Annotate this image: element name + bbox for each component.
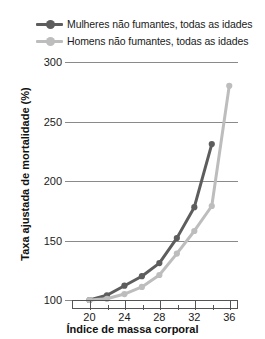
data-point-marker [226, 83, 232, 89]
data-point-marker [174, 250, 180, 256]
x-axis-tick-mark [125, 301, 126, 310]
mortality-bmi-line-chart: Mulheres não fumantes, todas as idades H… [0, 0, 265, 339]
x-axis-tick-label: 28 [146, 311, 172, 323]
legend-label-mulheres: Mulheres não fumantes, todas as idades [67, 19, 252, 30]
x-axis-tick-label: 24 [111, 311, 137, 323]
x-axis-tick-label: 36 [216, 311, 242, 323]
y-axis-tick-label: 250 [28, 117, 62, 128]
x-axis-minor-tick-mark [143, 305, 144, 310]
data-point-marker [209, 203, 215, 209]
y-axis-tick-mark [65, 181, 72, 182]
y-axis-tick-mark [65, 62, 72, 63]
data-point-marker [174, 235, 180, 241]
x-axis-minor-tick-mark [108, 305, 109, 310]
x-axis-tick-label: 32 [181, 311, 207, 323]
x-axis-tick-mark [230, 301, 231, 310]
x-axis-title: Índice de massa corporal [0, 323, 265, 335]
legend-label-homens: Homens não fumantes, todas as idades [67, 36, 248, 47]
chart-legend: Mulheres não fumantes, todas as idades H… [36, 16, 252, 50]
data-point-marker [156, 260, 162, 266]
series-line-mulheres [89, 144, 211, 300]
y-axis-tick-mark [65, 241, 72, 242]
y-axis-tick-mark [65, 122, 72, 123]
y-axis-title: Taxa ajustada de mortalidade (%) [19, 64, 31, 284]
x-axis-minor-tick-mark [213, 305, 214, 310]
y-axis-tick-label: 300 [28, 57, 62, 68]
y-axis-tick-label: 200 [28, 176, 62, 187]
legend-item-mulheres: Mulheres não fumantes, todas as idades [36, 16, 252, 33]
series-line-homens [89, 86, 229, 300]
data-point-marker [156, 272, 162, 278]
y-axis-tick-label: 150 [28, 236, 62, 247]
plot-area [72, 62, 238, 300]
data-point-marker [209, 141, 215, 147]
x-axis-minor-tick-mark [178, 305, 179, 310]
x-axis-tick-mark [160, 301, 161, 310]
series-layer [72, 62, 238, 300]
legend-item-homens: Homens não fumantes, todas as idades [36, 33, 252, 50]
data-point-marker [139, 284, 145, 290]
data-point-marker [191, 204, 197, 210]
data-point-marker [191, 228, 197, 234]
x-axis [72, 300, 238, 309]
x-axis-tick-mark [195, 301, 196, 310]
data-point-marker [121, 291, 127, 297]
x-axis-tick-label: 20 [76, 311, 102, 323]
y-axis-tick-mark [65, 300, 72, 301]
data-point-marker [139, 273, 145, 279]
y-axis-tick-label: 100 [28, 295, 62, 306]
legend-marker-icon-mulheres [36, 19, 63, 30]
x-axis-tick-mark [90, 301, 91, 310]
legend-marker-icon-homens [36, 36, 63, 47]
data-point-marker [121, 283, 127, 289]
